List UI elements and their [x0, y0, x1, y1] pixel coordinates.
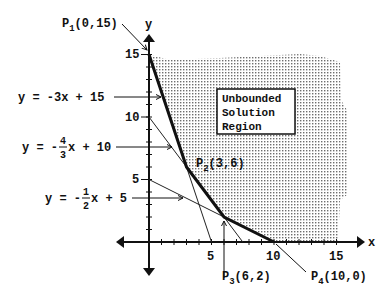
svg-text:1: 1 [83, 187, 89, 198]
equation-label-1: y = -3x + 15 [18, 91, 161, 105]
svg-text:x + 10: x + 10 [68, 141, 111, 155]
y-ticks [141, 55, 152, 230]
x-tick-10: 10 [266, 250, 280, 264]
region-label-box: Unbounded Solution Region [217, 89, 295, 134]
svg-text:2: 2 [83, 201, 89, 212]
y-tick-15: 15 [125, 48, 139, 62]
svg-text:y = -: y = - [22, 141, 58, 155]
region-line-3: Region [222, 121, 262, 133]
x-axis-label: x [368, 236, 375, 250]
linear-programming-graph: 5 10 15 5 10 15 x y Unbounded Solution R… [0, 0, 392, 302]
svg-text:y = -: y = - [45, 192, 81, 206]
equation-label-3: y = - 1 2 x + 5 [45, 187, 183, 212]
svg-text:P1(0,15): P1(0,15) [62, 17, 118, 34]
region-line-1: Unbounded [222, 93, 281, 105]
svg-text:3: 3 [60, 150, 66, 161]
svg-text:P3(6,2): P3(6,2) [222, 270, 271, 287]
svg-text:y = -3x + 15: y = -3x + 15 [18, 91, 104, 105]
point-label-p1: P1(0,15) [62, 17, 147, 50]
svg-text:P4(10,0): P4(10,0) [311, 270, 367, 287]
svg-text:4: 4 [60, 136, 66, 147]
svg-text:x + 5: x + 5 [91, 192, 127, 206]
x-tick-15: 15 [329, 250, 343, 264]
y-axis-label: y [145, 18, 152, 32]
y-tick-5: 5 [132, 173, 139, 187]
y-tick-10: 10 [125, 111, 139, 125]
point-label-p4: P4(10,0) [276, 244, 367, 287]
x-tick-5: 5 [207, 250, 214, 264]
region-line-2: Solution [222, 107, 275, 119]
